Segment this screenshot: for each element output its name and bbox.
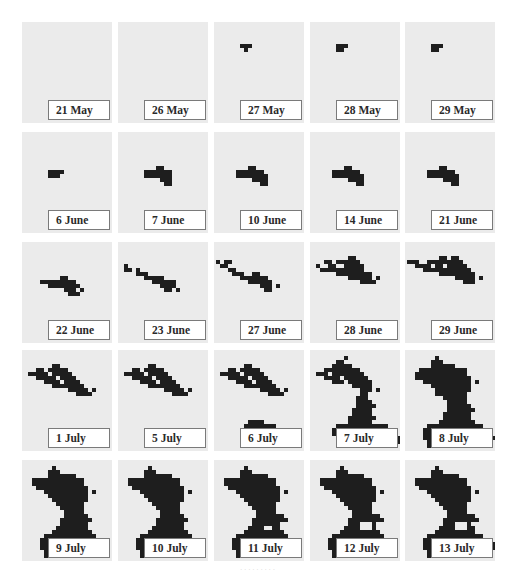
date-label: 26 May [144,100,206,120]
date-label: 6 June [48,210,110,230]
map-panel: 21 June [405,132,495,233]
date-label: 7 June [144,210,206,230]
date-label: 29 June [431,320,493,340]
date-label: 8 July [431,428,493,448]
date-label: 23 June [144,320,206,340]
map-panel: 29 June [405,242,495,343]
map-panel: 23 June [118,242,208,343]
date-label: 12 July [336,538,398,558]
date-label: 21 June [431,210,493,230]
date-label: 21 May [48,100,110,120]
map-panel: 10 July [118,460,208,561]
date-label: 27 May [240,100,302,120]
date-label: 27 June [240,320,302,340]
map-panel: 28 June [310,242,400,343]
map-panel: 6 July [214,350,304,451]
date-label: 1 July [48,428,110,448]
map-panel: 10 June [214,132,304,233]
map-panel: 29 May [405,22,495,123]
date-label: 28 June [336,320,398,340]
date-label: 13 July [431,538,493,558]
map-panel: 27 June [214,242,304,343]
date-label: 10 June [240,210,302,230]
date-label: 22 June [48,320,110,340]
figure-grid: 21 May26 May27 May28 May29 May6 June7 Ju… [0,0,516,577]
map-panel: 6 June [22,132,112,233]
date-label: 28 May [336,100,398,120]
map-panel: 26 May [118,22,208,123]
date-label: 29 May [431,100,493,120]
figure-caption-fragment: · · · · · · · · · [240,566,510,574]
map-panel: 13 July [405,460,495,561]
date-label: 9 July [48,538,110,558]
map-panel: 1 July [22,350,112,451]
date-label: 14 June [336,210,398,230]
map-panel: 27 May [214,22,304,123]
map-panel: 5 July [118,350,208,451]
date-label: 5 July [144,428,206,448]
map-panel: 11 July [214,460,304,561]
date-label: 7 July [336,428,398,448]
map-panel: 21 May [22,22,112,123]
map-panel: 22 June [22,242,112,343]
map-panel: 7 June [118,132,208,233]
map-panel: 28 May [310,22,400,123]
date-label: 10 July [144,538,206,558]
date-label: 11 July [240,538,302,558]
map-panel: 9 July [22,460,112,561]
map-panel: 12 July [310,460,400,561]
map-panel: 7 July [310,350,400,451]
date-label: 6 July [240,428,302,448]
map-panel: 8 July [405,350,495,451]
map-panel: 14 June [310,132,400,233]
